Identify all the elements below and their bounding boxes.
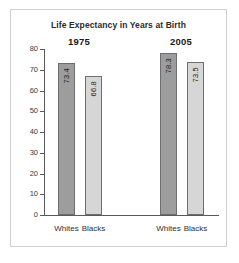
y-axis-tick-mark	[40, 194, 44, 195]
chart-title: Life Expectancy in Years at Birth	[10, 20, 227, 30]
y-axis-tick-label: 70	[18, 66, 38, 74]
y-axis-tick-mark	[40, 174, 44, 175]
y-axis-tick-mark	[40, 153, 44, 154]
chart-figure: Life Expectancy in Years at Birth 1975 2…	[0, 0, 239, 263]
y-axis-tick-label: 0	[18, 211, 38, 219]
y-axis-tick-label: 80	[18, 45, 38, 53]
y-axis-tick-mark	[40, 91, 44, 92]
y-axis-tick-label: 10	[18, 190, 38, 198]
bar-2005-whites: 78.3	[160, 53, 177, 215]
bar-2005-blacks: 73.5	[187, 62, 204, 215]
bar-1975-whites: 73.4	[58, 63, 75, 215]
category-label-blacks: Blacks	[77, 224, 111, 233]
y-axis-tick-mark	[40, 132, 44, 133]
y-axis-tick-mark	[40, 70, 44, 71]
y-axis-tick-mark	[40, 111, 44, 112]
y-axis-tick-mark	[40, 49, 44, 50]
group-header-2005: 2005	[150, 36, 212, 47]
y-axis-tick-label: 30	[18, 149, 38, 157]
y-axis-line	[44, 49, 45, 216]
bar-1975-blacks: 66.8	[85, 76, 102, 215]
category-label-blacks: Blacks	[179, 224, 213, 233]
bar-value-label: 73.5	[192, 67, 200, 82]
y-axis-tick-label: 20	[18, 170, 38, 178]
y-axis-tick-label: 60	[18, 87, 38, 95]
y-axis-tick-label: 50	[18, 107, 38, 115]
x-axis-baseline	[44, 215, 219, 216]
y-axis-tick-label: 40	[18, 128, 38, 136]
bar-value-label: 66.8	[90, 81, 98, 96]
bar-value-label: 73.4	[63, 68, 71, 83]
y-axis-tick-mark	[40, 215, 44, 216]
bar-value-label: 78.3	[165, 58, 173, 73]
group-header-1975: 1975	[48, 36, 110, 47]
